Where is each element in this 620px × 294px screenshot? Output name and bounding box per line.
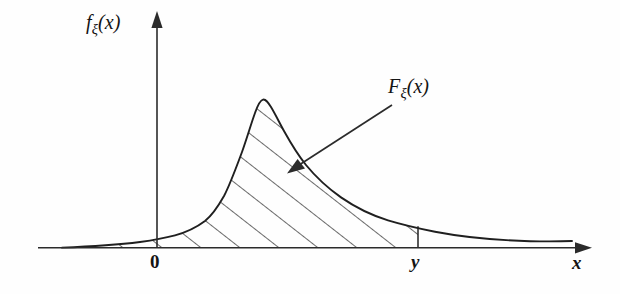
cdf-argument: (x)	[407, 75, 429, 97]
density-argument: (x)	[98, 11, 120, 33]
cdf-symbol: F	[388, 75, 400, 97]
cdf-callout-label: Fξ(x)	[388, 76, 429, 100]
shaded-cdf-area	[30, 80, 450, 260]
y-axis-arrowhead	[151, 11, 162, 28]
origin-tick-label: 0	[150, 252, 160, 271]
upper-bound-tick-label: y	[411, 252, 419, 271]
density-axis-label: fξ(x)	[86, 12, 120, 36]
density-symbol: f	[86, 11, 92, 33]
density-figure: fξ(x) Fξ(x) 0 y x	[0, 0, 620, 294]
figure-canvas	[0, 0, 620, 294]
x-axis-label: x	[572, 253, 582, 272]
cdf-callout-line	[296, 105, 392, 167]
